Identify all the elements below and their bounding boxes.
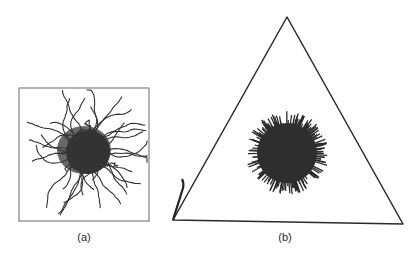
panel-b-dense-core [257, 123, 317, 183]
panel-a-label: (a) [69, 231, 99, 243]
panel-b-label: (b) [270, 231, 300, 243]
figure-canvas [0, 0, 420, 255]
panel-b [173, 17, 403, 224]
panel-a [19, 88, 149, 221]
panel-b-corner-curl [173, 179, 183, 220]
